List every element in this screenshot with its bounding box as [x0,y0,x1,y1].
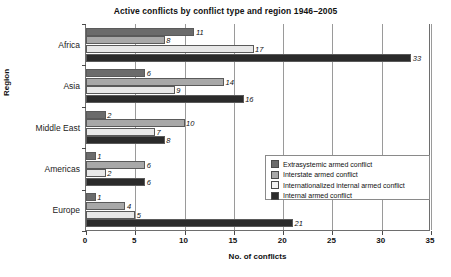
x-axis-tick [382,231,383,235]
y-axis-tick [82,24,86,25]
y-axis-category-label: Americas [45,164,80,174]
y-axis-category-label: Middle East [36,123,80,133]
bar-value-label: 6 [147,69,151,78]
bar [86,202,125,210]
bar-value-label: 11 [196,27,204,36]
x-axis-tick-label: 15 [228,236,237,245]
bar-value-label: 7 [157,127,161,136]
y-axis-tick [82,148,86,149]
y-axis-tick [82,231,86,232]
bar-value-label: 2 [107,169,111,178]
chart-legend: Extrasystemic armed conflictInterstate a… [265,155,430,200]
y-axis-tick [82,107,86,108]
y-axis-tick [82,190,86,191]
y-axis-title: Region [2,69,11,96]
legend-color-swatch [271,181,279,189]
x-axis-tick [332,231,333,235]
bar-value-label: 1 [97,193,101,202]
bar-value-label: 1 [97,152,101,161]
bar-value-label: 6 [147,177,151,186]
bar-value-label: 2 [107,110,111,119]
bar-value-label: 4 [127,202,131,211]
x-gridline [431,24,432,230]
bar [86,128,155,136]
x-axis-tick [86,231,87,235]
bar [86,86,175,94]
legend-label: Internationalized internal armed conflic… [283,182,405,189]
bar-value-label: 33 [413,53,421,62]
bar-value-label: 8 [166,136,170,145]
bar [86,95,244,103]
bar-value-label: 5 [137,210,141,219]
x-axis-tick [283,231,284,235]
bar-value-label: 6 [147,160,151,169]
bar [86,161,145,169]
x-axis-tick [431,231,432,235]
bar [86,69,145,77]
bar [86,36,165,44]
legend-color-swatch [271,171,279,179]
bar [86,193,96,201]
y-axis-category-label: Europe [53,205,80,215]
bar [86,178,145,186]
y-axis-category-label: Africa [58,40,80,50]
x-axis-tick-label: 30 [376,236,385,245]
bar [86,119,185,127]
chart-container: Active conflicts by conflict type and re… [0,0,451,277]
legend-color-swatch [271,192,279,200]
bar [86,211,135,219]
x-axis-tick-label: 10 [179,236,188,245]
x-axis-tick-label: 25 [327,236,336,245]
legend-item: Interstate armed conflict [271,170,429,180]
bar [86,45,254,53]
bar-value-label: 14 [226,77,234,86]
bar-value-label: 17 [255,45,263,54]
x-axis-tick [234,231,235,235]
y-axis-category-label: Asia [63,81,80,91]
bar-value-label: 8 [166,36,170,45]
x-axis-tick-label: 0 [83,236,87,245]
legend-label: Interstate armed conflict [283,171,358,178]
bar [86,54,411,62]
bar-value-label: 16 [245,95,253,104]
x-axis-tick [185,231,186,235]
bar [86,136,165,144]
bar-value-label: 9 [176,86,180,95]
x-axis-title: No. of conflicts [85,252,430,261]
bar [86,169,106,177]
legend-item: Extrasystemic armed conflict [271,159,429,169]
x-axis-tick-label: 20 [278,236,287,245]
bar [86,152,96,160]
bar-value-label: 10 [186,119,194,128]
legend-label: Internal armed conflict [283,192,352,199]
x-axis-tick-label: 5 [132,236,136,245]
y-axis-tick [82,65,86,66]
legend-item: Internal armed conflict [271,191,429,201]
chart-title: Active conflicts by conflict type and re… [0,6,451,16]
legend-label: Extrasystemic armed conflict [283,161,372,168]
legend-item: Internationalized internal armed conflic… [271,180,429,190]
bar-value-label: 21 [295,219,303,228]
x-axis-tick-label: 35 [426,236,435,245]
bar [86,28,194,36]
bar [86,78,224,86]
bar [86,111,106,119]
legend-color-swatch [271,160,279,168]
bar [86,219,293,227]
x-axis-tick [135,231,136,235]
